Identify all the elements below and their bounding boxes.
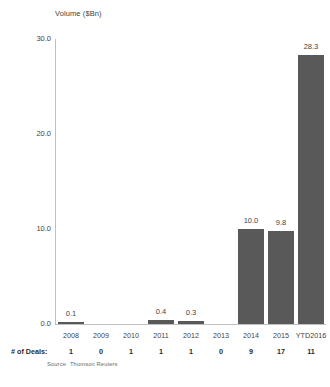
y-axis-title: Volume ($Bn) — [55, 9, 102, 18]
deal-count-value: 1 — [69, 347, 73, 356]
x-axis-tick-label: 2012 — [183, 331, 199, 340]
deal-count-value: 1 — [159, 347, 163, 356]
bar-slot: 0.4 — [146, 39, 176, 324]
bar-value-label: 0.1 — [66, 310, 76, 318]
deal-count-value: 0 — [99, 347, 103, 356]
deal-count-value: 0 — [219, 347, 223, 356]
bar-value-label: 0.3 — [186, 309, 196, 317]
bar[interactable] — [268, 231, 294, 324]
deal-count-value: 1 — [129, 347, 133, 356]
deals-row: # of Deals: 10111091711 — [0, 347, 330, 359]
bar-slot — [206, 39, 236, 324]
bar[interactable] — [238, 229, 264, 324]
bars-layer: 0.10.40.310.09.828.3 — [56, 39, 326, 324]
y-tick-label: 30.0 — [3, 35, 51, 43]
deal-count-value: 1 — [189, 347, 193, 356]
bar-chart: Volume ($Bn) 0.010.020.030.0 0.10.40.310… — [0, 0, 330, 387]
bar-slot — [116, 39, 146, 324]
source-text: Thomson Reuters — [70, 361, 118, 367]
y-axis-ticks: 0.010.020.030.0 — [0, 0, 51, 387]
deal-count-value: 9 — [249, 347, 253, 356]
bar-slot — [86, 39, 116, 324]
bar[interactable] — [58, 322, 84, 324]
x-axis-tick-label: 2009 — [93, 331, 109, 340]
bar-value-label: 0.4 — [156, 308, 166, 316]
deals-row-label: # of Deals: — [11, 347, 47, 356]
deal-count-value: 17 — [277, 347, 285, 356]
bar[interactable] — [298, 55, 324, 324]
x-axis-tick-label: 2013 — [213, 331, 229, 340]
deal-count-value: 11 — [307, 347, 315, 356]
x-axis-tick-label: 2015 — [273, 331, 289, 340]
bar-value-label: 28.3 — [304, 43, 319, 51]
bar-slot: 0.3 — [176, 39, 206, 324]
source-label: Source — [47, 361, 66, 367]
deals-values: 10111091711 — [56, 347, 326, 359]
bar-value-label: 10.0 — [244, 217, 259, 225]
x-axis-tick-label: 2010 — [123, 331, 139, 340]
x-axis-tick-label: YTD2016 — [296, 331, 326, 340]
x-axis-tick-label: 2011 — [153, 331, 168, 340]
bar[interactable] — [178, 321, 204, 324]
bar-slot: 28.3 — [296, 39, 326, 324]
x-axis-line — [55, 324, 326, 325]
y-tick-label: 0.0 — [3, 320, 51, 328]
bar-value-label: 9.8 — [276, 219, 286, 227]
bar-slot: 9.8 — [266, 39, 296, 324]
bar-slot: 0.1 — [56, 39, 86, 324]
bar-slot: 10.0 — [236, 39, 266, 324]
y-tick-label: 10.0 — [3, 225, 51, 233]
source-note: SourceThomson Reuters — [47, 361, 118, 367]
x-axis-tick-label: 2008 — [63, 331, 79, 340]
y-tick-label: 20.0 — [3, 130, 51, 138]
bar[interactable] — [148, 320, 174, 324]
x-axis-labels: 20082009201020112012201320142015YTD2016 — [56, 331, 326, 343]
x-axis-tick-label: 2014 — [243, 331, 259, 340]
